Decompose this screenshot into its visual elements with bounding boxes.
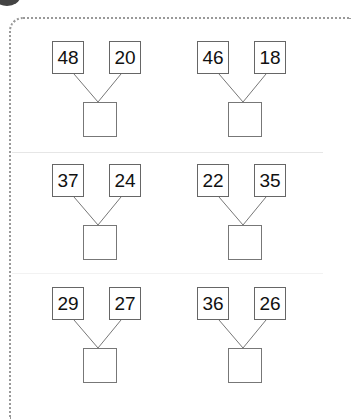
problem-2: 46 18 <box>197 41 297 141</box>
row-divider <box>12 152 323 153</box>
row-divider <box>12 273 323 274</box>
problem-3: 37 24 <box>52 164 152 264</box>
answer-box[interactable] <box>83 348 117 383</box>
problem-1: 48 20 <box>52 41 152 141</box>
answer-box[interactable] <box>228 225 262 260</box>
answer-box[interactable] <box>83 225 117 260</box>
problem-6: 36 26 <box>197 287 297 387</box>
problem-4: 22 35 <box>197 164 297 264</box>
answer-box[interactable] <box>83 102 117 137</box>
section-number-badge <box>0 0 20 6</box>
answer-box[interactable] <box>228 102 262 137</box>
answer-box[interactable] <box>228 348 262 383</box>
problem-5: 29 27 <box>52 287 152 387</box>
